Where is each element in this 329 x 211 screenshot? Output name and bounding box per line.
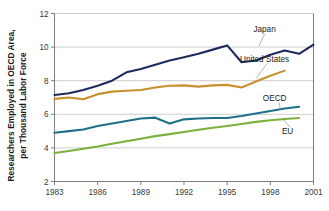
series-label-oecd: OECD xyxy=(263,94,287,103)
x-axis-ticks: 1983198619891992199519982001 xyxy=(45,182,323,197)
x-tick-label-1992: 1992 xyxy=(175,188,194,197)
y-tick-label-8: 8 xyxy=(44,77,49,86)
x-tick-label-1989: 1989 xyxy=(132,188,151,197)
y-tick-label-6: 6 xyxy=(44,110,49,119)
series-line-united-states xyxy=(55,71,285,100)
chart-container: Researchers Employed in OECD Area, per T… xyxy=(0,0,329,211)
x-tick-label-2001: 2001 xyxy=(304,188,323,197)
y-tick-label-2: 2 xyxy=(44,178,49,187)
y-tick-label-4: 4 xyxy=(44,144,49,153)
series-label-japan: Japan xyxy=(253,25,276,34)
x-tick-label-1998: 1998 xyxy=(261,188,280,197)
y-tick-label-12: 12 xyxy=(39,10,49,19)
x-tick-label-1986: 1986 xyxy=(89,188,108,197)
y-axis-ticks: 24681012 xyxy=(39,10,54,187)
leader-line-united-states xyxy=(256,63,268,79)
y-tick-label-10: 10 xyxy=(39,43,49,52)
series-label-united-states: United States xyxy=(240,55,289,64)
series-label-eu: EU xyxy=(282,127,293,136)
line-chart-plot: 24681012 1983198619891992199519982001 Ja… xyxy=(0,0,329,211)
leader-line-japan xyxy=(259,34,265,46)
series-line-oecd xyxy=(55,107,300,133)
x-tick-label-1983: 1983 xyxy=(45,188,64,197)
series-line-japan xyxy=(55,45,314,95)
x-tick-label-1995: 1995 xyxy=(218,188,237,197)
